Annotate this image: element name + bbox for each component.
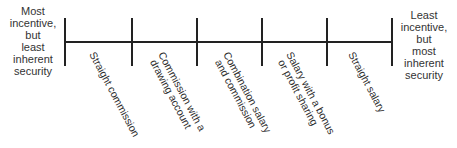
- right-end-line: Least: [392, 9, 456, 21]
- tick-mark-4: [326, 18, 328, 66]
- tick-mark-0: [64, 18, 66, 66]
- continuum-axis-line: [65, 41, 393, 43]
- plan-label-combination-salary-commission: Combination salary and commission: [212, 50, 274, 140]
- plan-label-commission-drawing-account: Commission with a drawing account: [147, 50, 208, 138]
- left-end-line: least: [1, 41, 65, 53]
- right-end-line: but: [392, 33, 456, 45]
- plan-label-line: Straight commission: [87, 50, 141, 139]
- left-end-line: Most: [1, 5, 65, 17]
- right-end-line: inherent: [392, 57, 456, 69]
- right-end-label: Least incentive, but most inherent secur…: [392, 9, 456, 81]
- plan-label-straight-salary: Straight salary: [346, 50, 387, 114]
- left-end-label: Most incentive, but least inherent secur…: [1, 5, 65, 77]
- left-end-line: but: [1, 29, 65, 41]
- tick-mark-3: [261, 18, 263, 66]
- right-end-line: incentive,: [392, 21, 456, 33]
- left-end-line: security: [1, 65, 65, 77]
- right-end-line: most: [392, 45, 456, 57]
- plan-label-line: Straight salary: [346, 50, 387, 114]
- tick-mark-2: [196, 18, 198, 66]
- left-end-line: incentive,: [1, 17, 65, 29]
- right-end-line: security: [392, 69, 456, 81]
- tick-mark-1: [131, 18, 133, 66]
- left-end-line: inherent: [1, 53, 65, 65]
- plan-label-straight-commission: Straight commission: [87, 50, 141, 139]
